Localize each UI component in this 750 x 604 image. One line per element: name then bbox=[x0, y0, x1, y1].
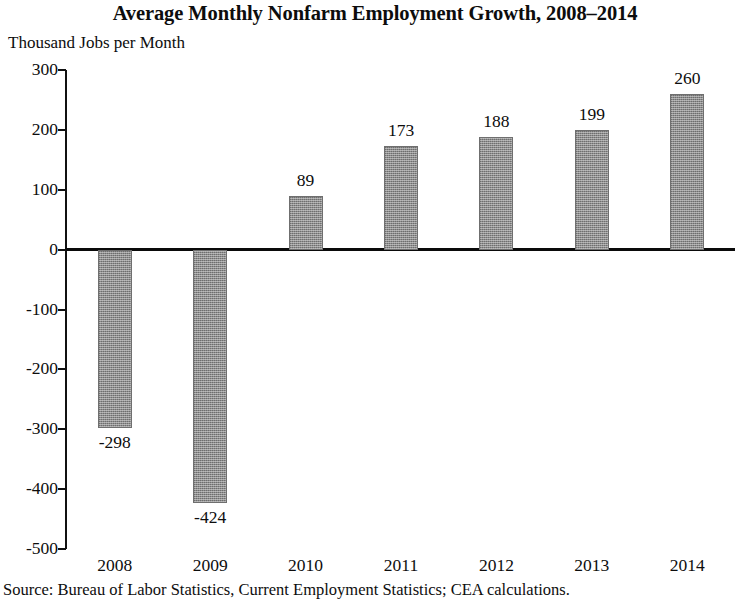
y-axis-tick-label: 200 bbox=[2, 121, 58, 139]
x-axis-tick-label: 2012 bbox=[456, 556, 536, 574]
x-axis-tick-label: 2014 bbox=[647, 556, 727, 574]
bar-2011 bbox=[384, 146, 418, 250]
bar-value-label: 199 bbox=[552, 105, 632, 123]
bar-2012 bbox=[479, 137, 513, 250]
y-axis-tick-label: 0 bbox=[2, 241, 58, 259]
y-axis-tick-mark bbox=[58, 189, 66, 191]
y-axis-tick-mark bbox=[58, 129, 66, 131]
bar-value-label: 188 bbox=[456, 112, 536, 130]
x-axis-tick-label: 2009 bbox=[170, 556, 250, 574]
y-axis-tick-label: 100 bbox=[2, 181, 58, 199]
bar-value-label: -298 bbox=[75, 433, 155, 451]
bar-value-label: 173 bbox=[361, 121, 441, 139]
y-axis-tick-mark bbox=[58, 368, 66, 370]
x-axis-tick-label: 2013 bbox=[552, 556, 632, 574]
source-note: Source: Bureau of Labor Statistics, Curr… bbox=[3, 580, 570, 600]
bar-2013 bbox=[575, 130, 609, 249]
y-axis-tick-mark bbox=[58, 488, 66, 490]
bar-2009 bbox=[193, 250, 227, 504]
y-axis-tick-label: -300 bbox=[2, 420, 58, 438]
x-axis-tick-label: 2008 bbox=[75, 556, 155, 574]
y-axis-tick-label: -500 bbox=[2, 540, 58, 558]
y-axis-tick-label: -400 bbox=[2, 480, 58, 498]
x-axis-tick-label: 2011 bbox=[361, 556, 441, 574]
bar-2010 bbox=[289, 196, 323, 249]
y-axis-tick-label: 300 bbox=[2, 61, 58, 79]
bar-value-label: 260 bbox=[647, 69, 727, 87]
bar-2014 bbox=[670, 94, 704, 250]
y-axis-tick-mark bbox=[58, 69, 66, 71]
bar-value-label: -424 bbox=[170, 508, 250, 526]
bar-2008 bbox=[98, 250, 132, 428]
y-axis-tick-label: -200 bbox=[2, 360, 58, 378]
chart-plot-area: 3002001000-100-200-300-400-500 -298-4248… bbox=[0, 0, 750, 604]
y-axis-tick-mark bbox=[58, 249, 66, 251]
y-axis-tick-mark bbox=[58, 548, 66, 550]
x-axis-tick-label: 2010 bbox=[266, 556, 346, 574]
y-axis-tick-label: -100 bbox=[2, 301, 58, 319]
y-axis-tick-mark bbox=[58, 309, 66, 311]
bar-value-label: 89 bbox=[266, 171, 346, 189]
y-axis-tick-mark bbox=[58, 428, 66, 430]
